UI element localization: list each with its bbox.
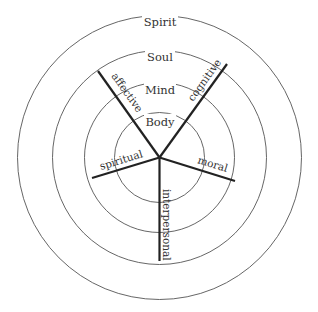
spoke-label-affective: affective [109, 70, 145, 114]
ring-label-soul: Soul [147, 50, 173, 64]
spoke-label-interpersonal: interpersonal [161, 189, 173, 261]
ring-label-mind: Mind [145, 83, 176, 97]
spoke-cognitive [160, 64, 228, 158]
ring-label-body: Body [145, 115, 175, 129]
body-mind-soul-spirit-diagram: Spirit Soul Mind Body affective cognitiv… [0, 0, 318, 312]
ring-label-spirit: Spirit [144, 15, 177, 29]
